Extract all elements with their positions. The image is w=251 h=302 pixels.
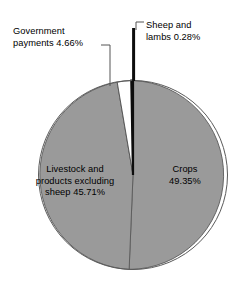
slice-callout-label-sheep-and-lambs: Sheep and lambs 0.28% (146, 20, 241, 43)
slice-label-crops: Crops 49.35% (146, 164, 224, 187)
pie-chart-figure: Government payments 4.66% Sheep and lamb… (0, 0, 251, 302)
leader-line-government-payments (101, 45, 110, 86)
leader-line-sheep-and-lambs (136, 22, 144, 30)
slice-label-livestock: Livestock and products excluding sheep 4… (24, 164, 126, 199)
slice-callout-label-government-payments: Government payments 4.66% (13, 26, 109, 49)
